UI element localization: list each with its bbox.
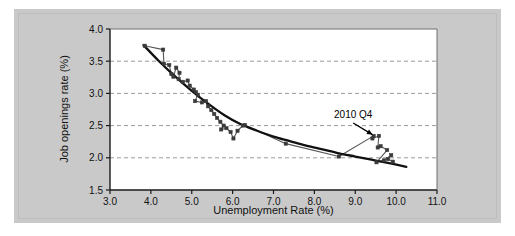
data-point-marker: [377, 134, 380, 137]
data-point-marker: [168, 63, 171, 66]
y-axis-label: Job openings rate (%): [58, 55, 70, 163]
y-axis-ticks: 1.52.02.53.03.54.0: [89, 24, 110, 196]
annotation-label: 2010 Q4: [334, 109, 373, 120]
data-point-marker: [181, 80, 184, 83]
data-point-marker: [193, 100, 196, 103]
x-tick-label: 5.0: [185, 196, 199, 207]
data-point-marker: [177, 78, 180, 81]
y-tick-label: 2.0: [89, 152, 103, 163]
data-point-marker: [337, 155, 340, 158]
data-point-marker: [219, 120, 222, 123]
data-point-marker: [229, 130, 232, 133]
data-point-marker: [186, 79, 189, 82]
data-point-marker: [225, 127, 228, 130]
data-point-marker: [284, 142, 287, 145]
data-point-marker: [382, 159, 385, 162]
x-axis-label: Unemployment Rate (%): [213, 204, 333, 216]
y-tick-label: 1.5: [89, 185, 103, 196]
data-point-marker: [162, 48, 165, 51]
figure-root: 3.04.05.06.07.08.09.010.011.0 1.52.02.53…: [0, 0, 515, 236]
data-point-marker: [188, 84, 191, 87]
beveridge-curve-chart: 3.04.05.06.07.08.09.010.011.0 1.52.02.53…: [0, 0, 515, 236]
x-tick-label: 11.0: [428, 196, 447, 207]
data-point-marker: [386, 148, 389, 151]
data-point-marker: [243, 123, 246, 126]
data-point-marker: [162, 62, 165, 65]
x-tick-label: 9.0: [348, 196, 362, 207]
x-tick-label: 4.0: [144, 196, 158, 207]
data-point-marker: [215, 116, 218, 119]
data-point-marker: [220, 128, 223, 131]
data-point-marker: [391, 160, 394, 163]
data-point-marker: [236, 129, 239, 132]
y-tick-label: 2.5: [89, 120, 103, 131]
data-point-marker: [213, 112, 216, 115]
data-point-marker: [200, 101, 203, 104]
data-point-marker: [232, 137, 235, 140]
data-point-marker: [210, 109, 213, 112]
data-point-marker: [172, 75, 175, 78]
data-point-marker: [207, 105, 210, 108]
data-point-marker: [371, 137, 374, 140]
data-point-marker: [196, 93, 199, 96]
plot-area-background: [110, 29, 437, 190]
data-point-marker: [375, 161, 378, 164]
data-point-marker: [175, 66, 178, 69]
x-tick-label: 3.0: [103, 196, 117, 207]
y-tick-label: 3.0: [89, 88, 103, 99]
y-tick-label: 4.0: [89, 24, 103, 35]
data-point-marker: [386, 157, 389, 160]
data-point-marker: [390, 154, 393, 157]
y-tick-label: 3.5: [89, 56, 103, 67]
x-tick-label: 10.0: [386, 196, 406, 207]
data-point-marker: [143, 44, 146, 47]
data-point-marker: [204, 100, 207, 103]
data-point-marker: [379, 145, 382, 148]
data-point-marker: [178, 71, 181, 74]
